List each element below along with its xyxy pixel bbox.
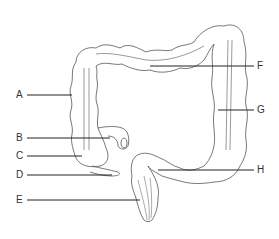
label-B: B [16, 133, 23, 143]
sigmoid-colon [148, 166, 240, 184]
label-F: F [257, 61, 263, 71]
label-G: G [257, 105, 265, 115]
colon-diagram [0, 0, 279, 239]
label-D: D [16, 170, 23, 180]
label-E: E [16, 195, 23, 205]
label-C: C [16, 151, 23, 161]
label-H: H [257, 165, 264, 175]
rectum [131, 166, 158, 222]
ileal-opening [121, 138, 127, 148]
label-A: A [16, 90, 23, 100]
transverse-colon [76, 25, 244, 62]
descending-colon [240, 42, 247, 166]
